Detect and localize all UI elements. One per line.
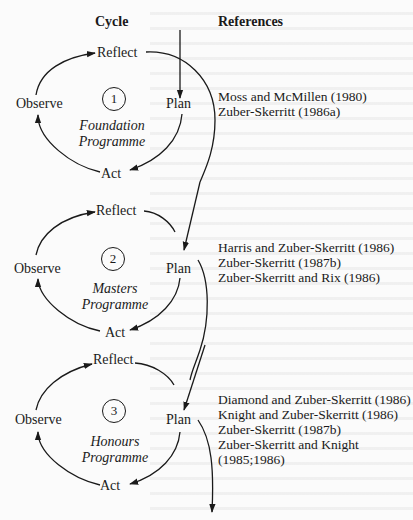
reference-item: Diamond and Zuber-Skerritt (1986) <box>218 392 411 407</box>
stage-observe: Observe <box>15 412 62 428</box>
programme-name: Masters Programme <box>75 281 155 313</box>
programme-name-line2: Programme <box>72 134 152 150</box>
stage-reflect: Reflect <box>97 45 137 61</box>
diagram-page: Cycle References Reflect Plan Act Observ… <box>0 0 413 520</box>
programme-name-line1: Masters <box>75 281 155 297</box>
stage-observe: Observe <box>14 261 61 277</box>
stage-act: Act <box>101 166 121 182</box>
reference-item: Zuber-Skerritt and Knight <box>218 437 411 452</box>
references-list: Harris and Zuber-Skerritt (1986) Zuber-S… <box>218 240 394 285</box>
stage-plan: Plan <box>166 261 191 277</box>
programme-name-line1: Honours <box>75 434 155 450</box>
programme-name: Honours Programme <box>75 434 155 466</box>
reference-item: Harris and Zuber-Skerritt (1986) <box>218 240 394 255</box>
cycle-number-badge: 1 <box>102 87 126 111</box>
stage-plan: Plan <box>166 96 191 112</box>
programme-name-line2: Programme <box>75 450 155 466</box>
reference-item: Zuber-Skerritt (1986a) <box>218 104 367 119</box>
programme-name: Foundation Programme <box>72 118 152 150</box>
stage-plan: Plan <box>166 412 191 428</box>
reference-item: (1985;1986) <box>218 452 411 467</box>
cycle-number-badge: 3 <box>102 399 126 423</box>
cycle-number-badge: 2 <box>101 247 125 271</box>
stage-reflect: Reflect <box>96 203 136 219</box>
reference-item: Moss and McMillen (1980) <box>218 89 367 104</box>
references-list: Diamond and Zuber-Skerritt (1986) Knight… <box>218 392 411 467</box>
references-list: Moss and McMillen (1980) Zuber-Skerritt … <box>218 89 367 119</box>
stage-reflect: Reflect <box>93 352 133 368</box>
reference-item: Zuber-Skerritt and Rix (1986) <box>218 270 394 285</box>
stage-act: Act <box>100 478 120 494</box>
cycle-column-header: Cycle <box>95 14 128 30</box>
stage-observe: Observe <box>16 96 63 112</box>
references-column-header: References <box>218 14 283 30</box>
programme-name-line1: Foundation <box>72 118 152 134</box>
stage-act: Act <box>105 325 125 341</box>
programme-name-line2: Programme <box>75 297 155 313</box>
reference-item: Zuber-Skerritt (1987b) <box>218 255 394 270</box>
reference-item: Knight and Zuber-Skerritt (1986) <box>218 407 411 422</box>
reference-item: Zuber-Skerritt (1987b) <box>218 422 411 437</box>
